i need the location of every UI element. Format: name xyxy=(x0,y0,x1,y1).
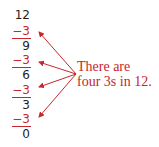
arrow-icons xyxy=(39,32,76,117)
annotation-line-1: There are xyxy=(77,59,130,74)
annotation-line-2: four 3s in 12. xyxy=(77,74,152,89)
